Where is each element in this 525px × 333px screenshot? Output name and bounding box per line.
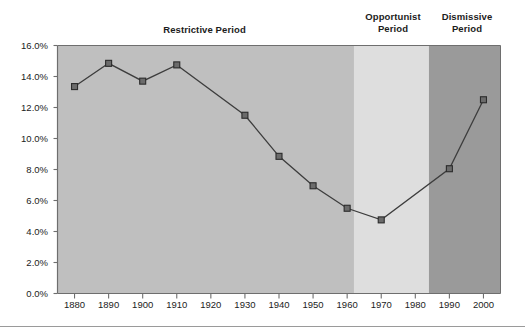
- data-point-marker: [378, 217, 384, 223]
- data-point-marker: [310, 183, 316, 189]
- data-point-marker: [276, 153, 282, 159]
- bottom-divider: [0, 326, 525, 327]
- data-point-marker: [242, 112, 248, 118]
- x-axis-tick-labels: 1880189019001910192019301940195019601970…: [0, 299, 525, 315]
- data-point-marker: [140, 78, 146, 84]
- band-restrictive: [58, 46, 354, 294]
- band-opportunist: [354, 46, 429, 294]
- background-bands: [58, 46, 501, 294]
- x-tick-label: 2000: [463, 299, 503, 310]
- data-point-marker: [106, 60, 112, 66]
- data-point-marker: [480, 97, 486, 103]
- chart-figure: Restrictive Period Opportunist Period Di…: [0, 0, 525, 333]
- data-point-marker: [72, 84, 78, 90]
- plot-area: [0, 0, 525, 333]
- data-point-marker: [446, 166, 452, 172]
- data-point-marker: [344, 205, 350, 211]
- band-dismissive: [429, 46, 501, 294]
- data-point-marker: [174, 62, 180, 68]
